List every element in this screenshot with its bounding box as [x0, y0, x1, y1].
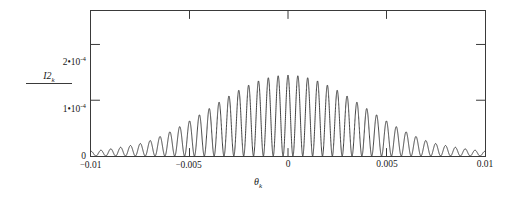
x-axis-title: θk	[0, 176, 516, 187]
y-tick-2e-4-base: 10	[71, 57, 81, 67]
x-axis-title-subscript: k	[259, 182, 262, 190]
y-tick-1e-4-exponent: -4	[80, 102, 86, 109]
x-tick-0.005-value: 0.005	[376, 159, 397, 169]
y-tick-2e-4-exponent: -4	[80, 55, 86, 62]
figure-container: 2•10-4 1•10-4 0 I2k ‒0.01 ‒0.005 0 0.005…	[0, 0, 516, 205]
interference-curve	[91, 11, 485, 156]
y-axis-title-subscript: k	[52, 76, 55, 84]
x-tick-0.01-value: 0.01	[477, 159, 494, 169]
plot-area	[90, 10, 486, 157]
axis-ticks	[91, 11, 485, 156]
data-series-path	[91, 75, 485, 156]
x-tick--0.005-value: 0.005	[180, 160, 201, 170]
y-axis-title: I2k	[26, 70, 72, 84]
x-tick-0-value: 0	[286, 159, 291, 169]
x-tick--0.01-value: 0.01	[85, 160, 102, 170]
y-tick-1e-4-base: 10	[71, 104, 81, 114]
y-axis-title-text: I2	[43, 70, 51, 81]
